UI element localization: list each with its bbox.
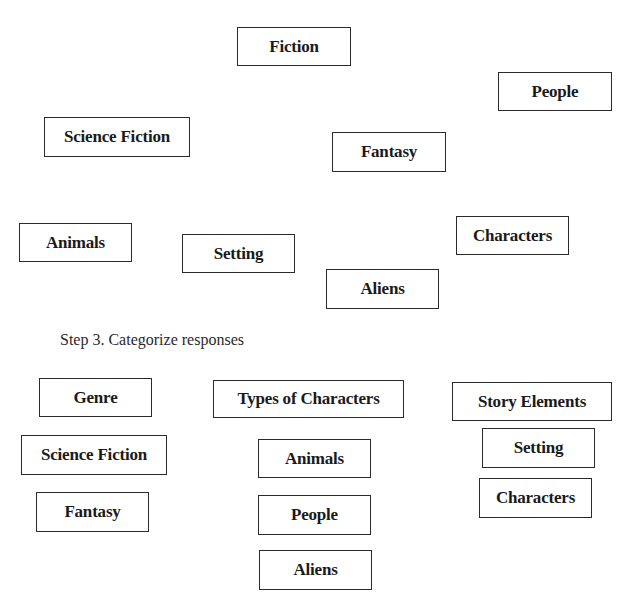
response-box-animals: Animals	[19, 223, 132, 262]
category-heading-types-of-characters: Types of Characters	[213, 380, 404, 418]
category-heading-genre: Genre	[39, 378, 152, 417]
category-item-setting: Setting	[482, 428, 595, 468]
response-box-characters: Characters	[456, 216, 569, 255]
response-box-fiction: Fiction	[237, 27, 351, 66]
response-box-people: People	[498, 72, 612, 111]
step3-caption: Step 3. Categorize responses	[60, 331, 244, 349]
category-item-animals: Animals	[258, 439, 371, 478]
category-item-characters: Characters	[479, 478, 592, 518]
category-item-science-fiction: Science Fiction	[21, 435, 167, 475]
response-box-fantasy: Fantasy	[332, 132, 446, 172]
category-item-aliens: Aliens	[259, 550, 372, 590]
category-item-fantasy: Fantasy	[36, 492, 149, 532]
response-box-aliens: Aliens	[326, 269, 439, 309]
category-item-people: People	[258, 495, 371, 535]
response-box-science-fiction: Science Fiction	[44, 117, 190, 157]
response-box-setting: Setting	[182, 234, 295, 273]
category-heading-story-elements: Story Elements	[452, 382, 612, 421]
